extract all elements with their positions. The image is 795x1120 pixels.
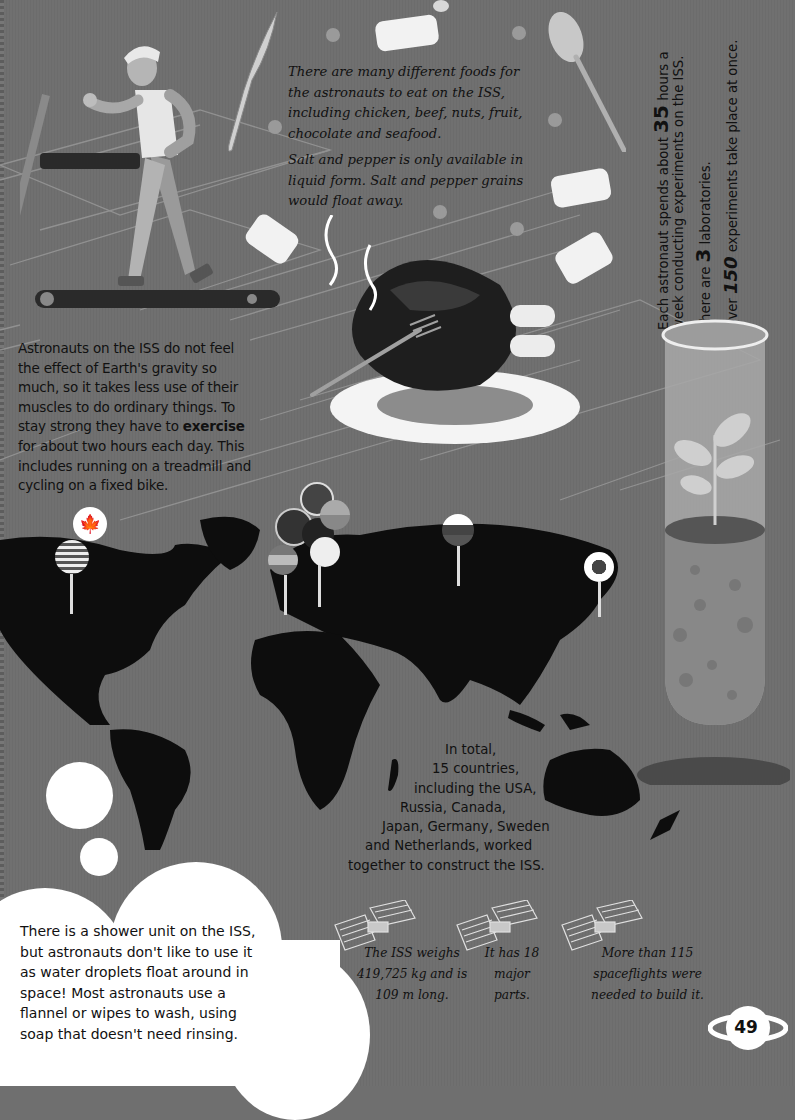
pin-needle [457, 546, 460, 586]
food-paragraph-1: There are many different foods for the a… [288, 62, 543, 144]
countries-line: Japan, Germany, Sweden [340, 817, 560, 836]
fact-weight: The ISS weighs 419,725 kg and is 109 m l… [357, 943, 467, 1006]
countries-line: In total, [340, 740, 560, 759]
usa-flag-pin [55, 540, 89, 574]
europe-flag-pin [310, 537, 340, 567]
bubble-icon [268, 120, 282, 134]
bubble-icon [548, 113, 562, 127]
countries-line: together to construct the ISS. [340, 856, 560, 875]
experiments-line-3: Over 150 experiments take place at once. [723, 30, 740, 330]
europe-flag-pin [268, 545, 298, 575]
pin-needle [70, 574, 73, 614]
pin-needle [318, 565, 321, 607]
thought-bubble-large [46, 762, 113, 829]
countries-text-block: In total, 15 countries, including the US… [340, 740, 560, 875]
spoon-icon [546, 12, 626, 152]
pin-needle [284, 575, 287, 615]
page-number: 49 [724, 1010, 768, 1044]
bubble-icon [512, 26, 526, 40]
experiments-line-2: There are 3 laboratories. [696, 30, 713, 330]
canada-flag-pin: 🍁 [73, 507, 107, 541]
knife-icon [222, 10, 282, 160]
exercise-bold-word: exercise [183, 418, 245, 434]
exercise-text-block: Astronauts on the ISS do not feel the ef… [18, 339, 258, 496]
exercise-text-after: for about two hours each day. This inclu… [18, 438, 251, 493]
fact-spaceflights: More than 115 spaceflights were needed t… [580, 943, 715, 1006]
countries-line: including the USA, [340, 779, 560, 798]
fact-parts: It has 18 major parts. [482, 943, 542, 1006]
countries-line: Russia, Canada, [340, 798, 560, 817]
bubble-icon [326, 28, 340, 42]
countries-line: and Netherlands, worked [340, 836, 560, 855]
bubble-icon [433, 0, 449, 12]
europe-flag-pin [320, 500, 350, 530]
experiments-line-1: Each astronaut spends about 35 hours a w… [654, 30, 686, 330]
japan-flag-pin [584, 552, 614, 582]
roast-chicken-icon [310, 215, 590, 455]
shower-text-block: There is a shower unit on the ISS, but a… [20, 921, 270, 1044]
countries-line: 15 countries, [340, 759, 560, 778]
russia-flag-pin [442, 514, 474, 546]
thought-bubble-small [80, 838, 118, 876]
pin-needle [598, 582, 601, 617]
food-text-block: There are many different foods for the a… [288, 62, 543, 218]
food-paragraph-2: Salt and pepper is only available in liq… [288, 150, 543, 212]
experiments-text-block: Each astronaut spends about 35 hours a w… [654, 30, 750, 330]
